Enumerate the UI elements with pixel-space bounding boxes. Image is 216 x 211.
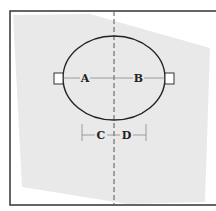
label-c: C xyxy=(97,129,106,142)
label-a: A xyxy=(80,72,90,85)
diagram-canvas: A B C D xyxy=(0,0,216,211)
label-b: B xyxy=(134,72,143,85)
shaded-region xyxy=(13,14,210,204)
label-d: D xyxy=(122,129,132,142)
left-tab xyxy=(54,73,63,84)
right-tab xyxy=(165,73,174,84)
